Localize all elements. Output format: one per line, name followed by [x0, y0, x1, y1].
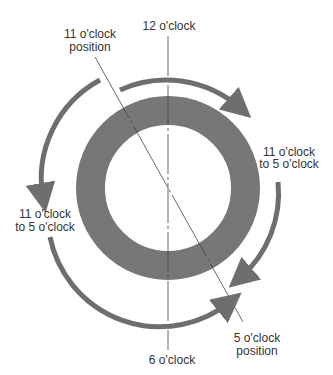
label-12-oclock: 12 o'clock	[143, 19, 197, 33]
label-5-position-1: 5 o'clock	[234, 331, 281, 345]
label-11-position-1: 11 o'clock	[64, 27, 117, 41]
label-5-position-2: position	[236, 344, 277, 358]
label-11-position-2: position	[69, 40, 110, 54]
label-left-arc-1: 11 o'clock	[19, 207, 72, 221]
label-right-arc-2: to 5 o'clock	[259, 157, 320, 171]
label-left-arc-2: to 5 o'clock	[15, 220, 76, 234]
clock-ring-diagram: 12 o'clock 6 o'clock 11 o'clock position…	[0, 0, 333, 375]
label-6-oclock: 6 o'clock	[149, 353, 196, 367]
